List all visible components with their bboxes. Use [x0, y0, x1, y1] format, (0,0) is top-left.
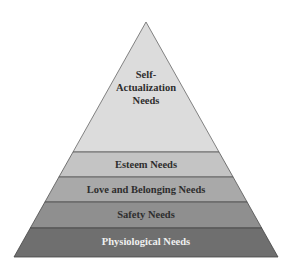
label-safety: Safety Needs	[0, 210, 292, 221]
label-physiological: Physiological Needs	[0, 237, 292, 248]
label-line: Self-	[0, 68, 292, 81]
label-self-actualization: Self- Actualization Needs	[0, 68, 292, 107]
maslow-pyramid-diagram: Self- Actualization Needs Esteem Needs L…	[0, 0, 292, 271]
label-line: Needs	[0, 94, 292, 107]
pyramid-graphic	[0, 0, 292, 271]
label-love-belonging: Love and Belonging Needs	[0, 185, 292, 196]
label-line: Actualization	[0, 81, 292, 94]
label-esteem: Esteem Needs	[0, 160, 292, 171]
